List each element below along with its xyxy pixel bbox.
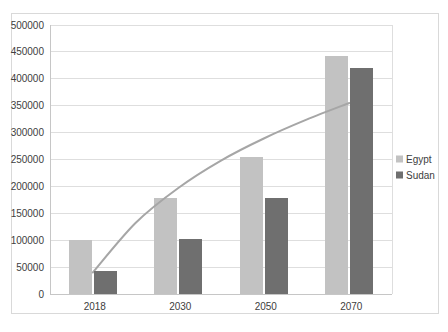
bar-sudan-2050: [265, 198, 288, 294]
y-tick-label: 250000: [11, 154, 45, 165]
bar-egypt-2018: [69, 240, 92, 294]
y-tick-label: 50000: [16, 262, 44, 273]
y-tick-label: 0: [38, 289, 44, 300]
y-tick-label: 200000: [11, 181, 45, 192]
y-tick-label: 500000: [11, 20, 45, 31]
bar-egypt-2050: [240, 157, 263, 294]
legend-swatch-egypt: [396, 156, 403, 163]
y-tick-label: 300000: [11, 127, 45, 138]
legend-swatch-sudan: [396, 172, 403, 179]
y-tick-label: 400000: [11, 73, 45, 84]
bar-sudan-2070: [350, 68, 373, 294]
bar-egypt-2030: [154, 198, 177, 294]
x-tick-label: 2030: [169, 301, 192, 312]
legend-label-sudan: Sudan: [406, 170, 435, 181]
x-tick-label: 2070: [340, 301, 363, 312]
y-tick-label: 150000: [11, 208, 45, 219]
bar-sudan-2030: [179, 239, 202, 294]
trend-curve: [93, 103, 350, 273]
legend-label-egypt: Egypt: [406, 154, 432, 165]
bar-chart: 0500001000001500002000002500003000003500…: [0, 0, 448, 332]
bar-egypt-2070: [325, 56, 348, 294]
x-tick-label: 2050: [255, 301, 278, 312]
y-tick-label: 450000: [11, 46, 45, 57]
x-tick-label: 2018: [84, 301, 107, 312]
bar-sudan-2018: [94, 271, 117, 294]
y-tick-label: 350000: [11, 100, 45, 111]
y-tick-label: 100000: [11, 235, 45, 246]
chart-canvas: 0500001000001500002000002500003000003500…: [0, 0, 448, 332]
